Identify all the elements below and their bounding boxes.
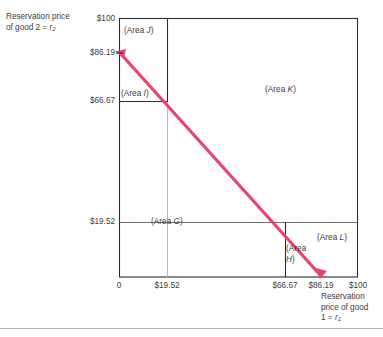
area-h-suffix: ) (292, 255, 295, 264)
y-tick-label-86-19: $86.19 (52, 48, 115, 57)
y-tick-label-66-67: $66.67 (52, 96, 115, 105)
x-tick-label-100: $100 (340, 281, 376, 290)
x-axis-title-line2: price of good (321, 303, 368, 312)
area-i-prefix: (Area (121, 89, 144, 98)
x-axis-title-line3-prefix: 1 = (321, 313, 335, 322)
area-l-suffix: ) (344, 233, 347, 242)
area-g-suffix: ) (180, 217, 183, 226)
x-axis-title: Reservation price of good 1 = r1 (321, 292, 383, 325)
area-label-l: (Area L) (317, 233, 347, 243)
area-l-prefix: (Area (317, 233, 340, 242)
y-axis-title-sub: 2 (52, 25, 55, 32)
x-tick-label-0: 0 (110, 281, 128, 290)
area-g-prefix: (Area (151, 217, 174, 226)
area-i-suffix: ) (146, 89, 149, 98)
area-k-prefix: (Area (265, 85, 288, 94)
area-label-h: (AreaH) (286, 243, 312, 265)
area-label-k: (Area K) (265, 85, 296, 95)
area-label-i: (Area I) (121, 89, 149, 99)
x-tick-label-19-52: $19.52 (137, 281, 197, 290)
y-tick-label-100: $100 (58, 14, 115, 23)
y-axis-title-line2-prefix: of good 2 = (6, 23, 49, 32)
area-h-prefix: (Area (286, 244, 306, 253)
area-k-suffix: ) (293, 85, 296, 94)
area-j-prefix: (Area (124, 26, 147, 35)
area-j-suffix: ) (151, 26, 154, 35)
x-axis-title-line1: Reservation (321, 292, 365, 301)
x-axis-title-sub: 1 (338, 316, 341, 323)
area-label-g: (Area G) (151, 217, 183, 227)
figure-container: Reservation price of good 2 = r2 $100 $8… (0, 0, 383, 337)
y-tick-label-19-52: $19.52 (52, 217, 115, 226)
area-label-j: (Area J) (124, 26, 154, 36)
